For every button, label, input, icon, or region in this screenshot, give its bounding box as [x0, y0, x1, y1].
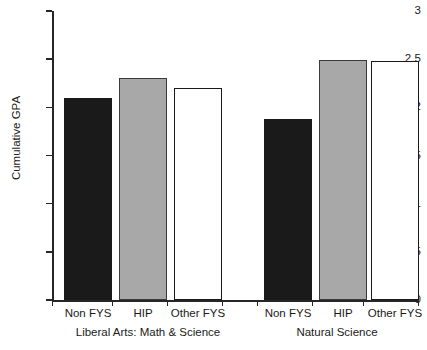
y-tick-mark: [46, 58, 52, 59]
group-label: Liberal Arts: Math & Science: [38, 326, 258, 339]
x-tick-mark: [312, 300, 313, 306]
x-tick-mark: [222, 300, 223, 306]
y-tick-mark: [46, 155, 52, 156]
x-tick-mark: [112, 300, 113, 306]
clipped-title-text: · ·: [0, 0, 421, 1]
x-tick-mark: [167, 300, 168, 306]
x-tick-mark: [257, 300, 258, 306]
y-tick-mark: [46, 203, 52, 204]
y-axis-line: [52, 11, 54, 301]
x-tick-label: Other FYS: [153, 307, 243, 320]
bar-natural-science-hip: [319, 60, 367, 300]
bar-liberal-arts-math-science-other-fys: [174, 88, 222, 300]
bar-natural-science-other-fys: [371, 61, 419, 300]
y-tick-mark: [46, 251, 52, 252]
y-tick-mark: [46, 107, 52, 108]
group-label: Natural Science: [227, 326, 427, 339]
x-tick-mark: [418, 300, 419, 306]
y-tick-mark: [46, 10, 52, 11]
y-axis-title: Cumulative GPA: [10, 78, 22, 198]
bar-liberal-arts-math-science-non-fys: [64, 98, 112, 300]
bar-liberal-arts-math-science-hip: [119, 78, 167, 300]
y-tick-label: 3: [377, 5, 421, 17]
x-tick-label: Other FYS: [350, 307, 427, 320]
x-tick-mark: [52, 300, 53, 306]
x-tick-mark: [363, 300, 364, 306]
bar-natural-science-non-fys: [264, 119, 312, 300]
